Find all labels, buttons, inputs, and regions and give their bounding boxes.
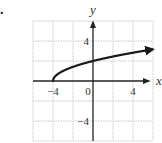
- y-tick-label: −4: [77, 115, 89, 127]
- x-tick-label: 4: [130, 85, 136, 97]
- y-tick-label: 4: [84, 35, 90, 47]
- y-axis-label: y: [88, 2, 96, 17]
- x-tick-label: −4: [47, 85, 59, 97]
- function-graph: xy−4044−4: [0, 0, 162, 143]
- function-curve: [53, 50, 152, 81]
- axes: [33, 22, 149, 141]
- x-tick-label: 0: [85, 85, 91, 97]
- curve-path: [53, 50, 152, 81]
- x-axis-label: x: [155, 73, 162, 88]
